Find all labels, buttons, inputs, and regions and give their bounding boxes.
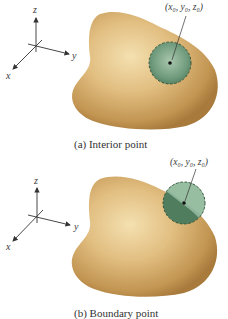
point-label: (x₀, y₀, z₀) <box>170 157 208 167</box>
axis-label-z: z <box>34 175 38 186</box>
axis-label-y: y <box>74 221 78 232</box>
caption-boundary: (b) Boundary point <box>74 307 158 319</box>
solid-region <box>72 12 218 130</box>
coordinate-axes <box>13 18 69 69</box>
point-dot <box>182 201 186 205</box>
caption-interior: (a) Interior point <box>74 138 147 150</box>
axis-label-x: x <box>6 70 10 81</box>
coordinate-axes <box>13 188 70 241</box>
panel-interior-point: z y x (x₀, y₀, z₀) (a) Interior point <box>0 0 228 155</box>
axis-label-z: z <box>33 4 37 15</box>
interior-point-diagram <box>0 0 228 155</box>
axis-label-y: y <box>72 50 76 61</box>
panel-boundary-point: z y x (x₀, y₀, z₀) (b) Boundary point <box>0 155 228 309</box>
point-label: (x₀, y₀, z₀) <box>165 2 203 12</box>
point-dot <box>168 61 172 65</box>
axis-label-x: x <box>6 241 10 252</box>
